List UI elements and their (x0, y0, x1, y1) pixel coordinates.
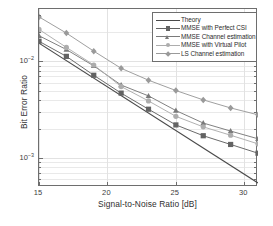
x-tick-label: 25 (171, 188, 180, 197)
x-major-tick (244, 182, 245, 186)
y-minor-tick (254, 76, 256, 77)
data-point-marker (64, 30, 70, 36)
legend-item-2[interactable]: MMSE Channel estimation (155, 33, 253, 41)
y-tick-label: 10−2 (20, 55, 35, 66)
x-axis-label: Signal-to-Noise Ratio [dB] (38, 199, 257, 209)
legend-label: Theory (181, 16, 201, 24)
legend-item-1[interactable]: MMSE with Perfect CSI (155, 24, 253, 32)
y-minor-tick (39, 129, 41, 130)
data-point-marker (201, 124, 206, 129)
y-minor-tick (254, 91, 256, 92)
y-minor-tick (39, 71, 41, 72)
y-major-tick (39, 158, 43, 159)
data-point-marker (91, 73, 96, 78)
y-tick-label: 10−3 (20, 152, 35, 163)
data-point-marker (255, 141, 258, 146)
y-minor-tick (39, 32, 41, 33)
y-minor-tick (39, 91, 41, 92)
data-point-marker (255, 151, 258, 156)
y-minor-tick (39, 66, 41, 67)
legend-swatch (155, 24, 181, 32)
legend-line (156, 20, 180, 21)
y-minor-tick (39, 15, 41, 16)
data-point-marker (119, 91, 124, 96)
data-point-marker (173, 122, 178, 127)
legend-item-4[interactable]: LS Channel estimation (155, 50, 253, 58)
y-major-tick (39, 61, 43, 62)
x-tick-label: 20 (102, 188, 111, 197)
legend-swatch (155, 33, 181, 41)
y-minor-tick (254, 129, 256, 130)
y-minor-tick (39, 179, 41, 180)
legend-swatch (155, 16, 181, 24)
y-minor-tick (39, 167, 41, 168)
series-0 (39, 43, 258, 183)
legend-marker-triangle-icon (165, 35, 169, 39)
y-minor-tick (254, 167, 256, 168)
legend-swatch (155, 41, 181, 49)
data-point-marker (228, 105, 234, 112)
legend-marker-diamond-icon (165, 51, 171, 57)
legend-item-3[interactable]: MMSE with Virtual Pilot (155, 41, 253, 49)
data-point-marker (118, 65, 124, 72)
data-point-marker (64, 54, 69, 59)
legend-marker-circle-icon (166, 43, 170, 47)
data-point-marker (173, 87, 179, 94)
data-point-marker (64, 45, 69, 50)
x-tick-label: 30 (239, 188, 248, 197)
x-major-tick (176, 182, 177, 186)
data-point-marker (119, 84, 124, 89)
legend-label: LS Channel estimation (181, 50, 244, 58)
data-point-marker (91, 62, 96, 67)
legend-label: MMSE Channel estimation (181, 33, 256, 41)
x-major-tick (39, 182, 40, 186)
legend-item-0[interactable]: Theory (155, 16, 253, 24)
bit-error-ratio-chart: Bit Error Ratio Signal-to-Noise Ratio [d… (0, 0, 273, 226)
data-point-marker (173, 114, 178, 119)
y-minor-tick (254, 179, 256, 180)
y-minor-tick (254, 83, 256, 84)
data-point-marker (146, 98, 151, 103)
data-point-marker (200, 97, 206, 104)
data-point-marker (91, 48, 97, 55)
series-line (39, 43, 258, 183)
legend-label: MMSE with Virtual Pilot (181, 41, 246, 49)
y-minor-tick (254, 112, 256, 113)
x-major-tick (107, 182, 108, 186)
data-point-marker (39, 39, 42, 44)
data-point-marker (201, 133, 206, 138)
legend-label: MMSE with Perfect CSI (181, 24, 247, 32)
y-minor-tick (39, 112, 41, 113)
data-point-marker (173, 108, 179, 113)
y-minor-tick (254, 66, 256, 67)
y-minor-tick (39, 100, 41, 101)
legend-marker-square-icon (166, 26, 170, 30)
y-minor-tick (254, 71, 256, 72)
y-minor-tick (39, 173, 41, 174)
x-tick-label: 15 (34, 188, 43, 197)
y-minor-tick (39, 76, 41, 77)
data-point-marker (39, 33, 42, 38)
data-point-marker (146, 77, 152, 84)
data-point-marker (146, 107, 151, 112)
y-minor-tick (254, 162, 256, 163)
legend-swatch (155, 50, 181, 58)
y-minor-tick (254, 173, 256, 174)
legend: TheoryMMSE with Perfect CSIMMSE Channel … (152, 12, 257, 62)
y-minor-tick (39, 83, 41, 84)
data-point-marker (228, 142, 233, 147)
y-minor-tick (254, 100, 256, 101)
data-point-marker (228, 133, 233, 138)
y-minor-tick (39, 162, 41, 163)
